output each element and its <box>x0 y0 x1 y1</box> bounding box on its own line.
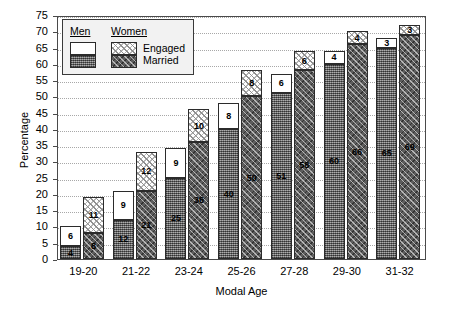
bar-value-label: 4 <box>348 33 367 42</box>
bar-segment-men-married: 25 <box>165 178 186 259</box>
bar-value-label: 6 <box>295 56 314 65</box>
y-axis-tick-label: 0 <box>0 254 48 265</box>
bar-segment-women-married: 58 <box>294 70 315 259</box>
bar-women: 693 <box>399 25 420 259</box>
bar-segment-men-married: 40 <box>218 129 239 259</box>
legend-swatch-men-engaged <box>70 42 96 55</box>
bar-value-label: 6 <box>61 232 80 241</box>
y-axis-tick-label: 75 <box>0 10 48 21</box>
bar-value-label: 51 <box>272 172 291 181</box>
y-axis-tick-label: 20 <box>0 189 48 200</box>
bar-segment-women-married: 21 <box>136 191 157 259</box>
y-axis-tick-label: 55 <box>0 75 48 86</box>
y-axis-tick-mark <box>53 260 57 261</box>
legend-swatch-men-married <box>70 55 96 68</box>
chart-legend: Men Women Engaged Married <box>62 19 194 75</box>
bar-value-label: 11 <box>84 211 103 220</box>
bar-men: 129 <box>113 191 134 259</box>
bar-value-label: 3 <box>400 25 419 34</box>
bar-group: 516586 <box>269 17 322 259</box>
bar-value-label: 8 <box>242 79 261 88</box>
bar-women: 508 <box>241 70 262 259</box>
chart-figure: Percentage 05101520253035404550556065707… <box>0 0 450 309</box>
bar-segment-women-engaged: 12 <box>136 152 157 191</box>
bar-men: 259 <box>165 148 186 259</box>
bar-value-label: 3 <box>377 38 396 47</box>
bar-segment-men-married: 51 <box>271 93 292 259</box>
bar-segment-men-engaged: 8 <box>218 103 239 129</box>
y-axis-tick-label: 45 <box>0 108 48 119</box>
bar-segment-men-engaged: 6 <box>271 74 292 94</box>
bar-value-label: 40 <box>219 189 238 198</box>
bar-value-label: 8 <box>219 111 238 120</box>
x-axis-title: Modal Age <box>57 285 426 297</box>
bar-value-label: 4 <box>325 53 344 62</box>
bar-group: 653693 <box>374 17 427 259</box>
bar-segment-women-engaged: 10 <box>188 109 209 142</box>
bar-segment-men-engaged: 3 <box>376 38 397 48</box>
y-axis-tick-label: 5 <box>0 238 48 249</box>
bar-men: 408 <box>218 103 239 259</box>
bar-value-label: 69 <box>400 142 419 151</box>
legend-swatch-women-engaged <box>111 42 137 55</box>
y-axis-tick-label: 25 <box>0 173 48 184</box>
x-axis-tick-label: 31-32 <box>365 266 435 277</box>
bar-segment-women-married: 8 <box>83 233 104 259</box>
bar-women: 3610 <box>188 109 209 259</box>
bar-segment-men-married: 60 <box>324 64 345 259</box>
bar-value-label: 25 <box>166 214 185 223</box>
bar-men: 604 <box>324 51 345 259</box>
bar-segment-men-married: 12 <box>113 220 134 259</box>
bar-women: 664 <box>347 31 368 259</box>
bar-segment-men-married: 4 <box>60 246 81 259</box>
bar-value-label: 12 <box>114 235 133 244</box>
bar-men: 46 <box>60 226 81 259</box>
bar-men: 653 <box>376 38 397 259</box>
y-axis-tick-label: 10 <box>0 221 48 232</box>
legend-header-men: Men <box>70 26 90 37</box>
bar-value-label: 36 <box>189 196 208 205</box>
bar-value-label: 50 <box>242 173 261 182</box>
bar-value-label: 60 <box>325 157 344 166</box>
y-axis-tick-label: 40 <box>0 124 48 135</box>
y-axis-tick-label: 60 <box>0 59 48 70</box>
bar-segment-men-engaged: 4 <box>324 51 345 64</box>
bar-segment-men-engaged: 9 <box>113 191 134 220</box>
legend-swatch-women-married <box>111 55 137 68</box>
bar-segment-men-married: 65 <box>376 48 397 259</box>
bar-segment-women-married: 69 <box>399 35 420 259</box>
bar-segment-women-married: 66 <box>347 44 368 259</box>
y-axis-tick-label: 15 <box>0 205 48 216</box>
bar-group: 604664 <box>322 17 375 259</box>
bar-value-label: 4 <box>61 248 80 257</box>
bar-segment-women-engaged: 4 <box>347 31 368 44</box>
bar-segment-women-engaged: 8 <box>241 70 262 96</box>
legend-label-married: Married <box>143 54 179 66</box>
legend-label-engaged: Engaged <box>143 42 185 54</box>
bar-segment-women-engaged: 3 <box>399 25 420 35</box>
y-axis-tick-label: 70 <box>0 26 48 37</box>
bar-value-label: 8 <box>84 241 103 250</box>
bar-segment-women-married: 50 <box>241 96 262 259</box>
bar-value-label: 9 <box>166 159 185 168</box>
y-axis-tick-label: 30 <box>0 156 48 167</box>
bar-men: 516 <box>271 74 292 259</box>
bar-segment-women-engaged: 6 <box>294 51 315 71</box>
y-axis-tick-label: 65 <box>0 43 48 54</box>
bar-value-label: 65 <box>377 149 396 158</box>
bar-value-label: 58 <box>295 160 314 169</box>
bar-women: 586 <box>294 51 315 259</box>
bar-segment-men-engaged: 6 <box>60 226 81 246</box>
bar-value-label: 9 <box>114 201 133 210</box>
bar-value-label: 6 <box>272 79 291 88</box>
bar-value-label: 66 <box>348 147 367 156</box>
y-axis-tick-label: 50 <box>0 91 48 102</box>
bar-segment-women-engaged: 11 <box>83 197 104 233</box>
bar-value-label: 10 <box>189 121 208 130</box>
bar-segment-women-married: 36 <box>188 142 209 259</box>
legend-header-women: Women <box>111 26 147 37</box>
bar-women: 2112 <box>136 152 157 259</box>
bar-segment-men-engaged: 9 <box>165 148 186 177</box>
bar-value-label: 12 <box>137 167 156 176</box>
bar-value-label: 21 <box>137 220 156 229</box>
